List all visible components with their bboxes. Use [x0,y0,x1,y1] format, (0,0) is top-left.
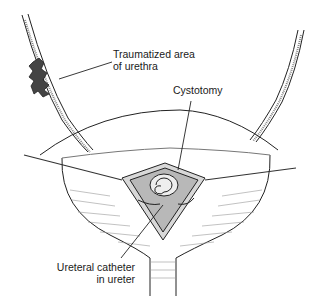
label-traumatized-urethra-line1: Traumatized area [113,48,195,60]
bladder-illustration [0,0,318,296]
right-tube [250,30,304,142]
label-traumatized-urethra-line2: of urethra [113,60,195,72]
label-ureteral-catheter-line2: in ureter [55,273,135,285]
label-cystotomy: Cystotomy [173,84,223,96]
label-ureteral-catheter-line1: Ureteral catheter [55,261,135,273]
label-ureteral-catheter: Ureteral catheter in ureter [55,261,135,285]
label-traumatized-urethra: Traumatized area of urethra [113,48,195,72]
left-tube [22,14,93,152]
cystotomy-opening [122,163,205,240]
